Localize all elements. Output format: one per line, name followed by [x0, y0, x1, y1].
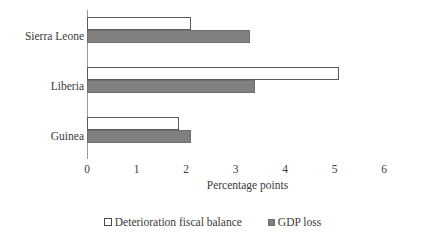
- bar-gdp-loss[interactable]: [87, 80, 255, 93]
- category-label-guinea: Guinea: [0, 130, 84, 143]
- legend-label: GDP loss: [278, 216, 321, 228]
- x-tick-label-6: 6: [372, 163, 396, 175]
- x-tick-label-5: 5: [323, 163, 347, 175]
- x-tick-label-0: 0: [75, 163, 99, 175]
- chart-legend: Deterioration fiscal balance GDP loss: [0, 216, 425, 228]
- legend-label: Deterioration fiscal balance: [115, 216, 242, 228]
- x-axis-line: [87, 159, 385, 160]
- x-tick-label-1: 1: [125, 163, 149, 175]
- plot-area: [87, 10, 385, 160]
- x-axis-title-text: Percentage points: [137, 179, 288, 191]
- filled-square-marker-icon: [268, 219, 275, 226]
- x-tick-label-3: 3: [224, 163, 248, 175]
- x-axis-title: Percentage points: [0, 179, 425, 191]
- bar-deterioration-fiscal-balance[interactable]: [87, 117, 179, 130]
- open-square-marker-icon: [104, 218, 112, 226]
- legend-item-deterioration-fiscal-balance[interactable]: Deterioration fiscal balance: [104, 216, 242, 228]
- bar-gdp-loss[interactable]: [87, 30, 250, 43]
- x-tick-label-4: 4: [273, 163, 297, 175]
- bar-chart: Sierra Leone Liberia Guinea 0123456 Perc…: [0, 0, 425, 248]
- legend-item-gdp-loss[interactable]: GDP loss: [268, 216, 321, 228]
- bar-deterioration-fiscal-balance[interactable]: [87, 17, 191, 30]
- bar-gdp-loss[interactable]: [87, 130, 191, 143]
- category-label-sierra-leone: Sierra Leone: [0, 30, 84, 43]
- x-tick-label-2: 2: [174, 163, 198, 175]
- category-label-liberia: Liberia: [0, 80, 84, 93]
- bar-deterioration-fiscal-balance[interactable]: [87, 67, 339, 80]
